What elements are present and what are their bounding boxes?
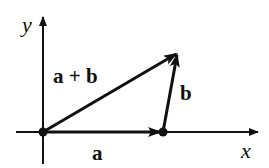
origin-point xyxy=(39,128,48,137)
vector-a-label: a xyxy=(92,141,103,165)
vector-b-label: b xyxy=(180,81,192,105)
y-axis-label: y xyxy=(20,12,32,37)
vector-a-plus-b-label: a + b xyxy=(53,64,98,88)
point-a xyxy=(159,128,168,137)
vector-b xyxy=(163,55,177,132)
vector-addition-diagram: y x a b a + b xyxy=(0,0,269,168)
x-axis-label: x xyxy=(240,138,251,163)
